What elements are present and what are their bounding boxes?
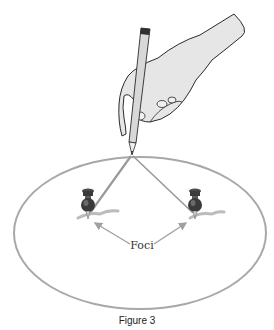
figure-caption: Figure 3 [119,315,156,326]
foci-arrow-left [95,223,130,244]
ellipse-curve [14,157,266,309]
ellipse-diagram: Foci Figure 3 [0,0,274,330]
foci-label: Foci [130,239,154,252]
string-right [133,156,193,213]
pin-shadow-left [78,211,118,218]
foci-arrow-right [154,223,186,244]
string-left [90,156,131,213]
